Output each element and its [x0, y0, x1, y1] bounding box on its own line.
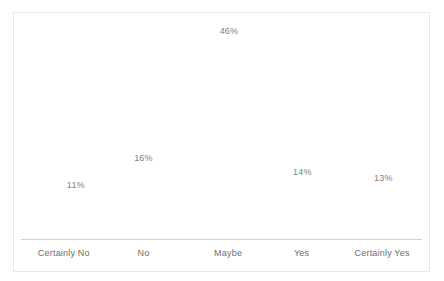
data-label-yes: 14% [293, 167, 312, 176]
category-label-certainly-yes: Certainly Yes [355, 246, 410, 260]
category-label-no: No [138, 246, 150, 260]
x-axis-category-labels: Certainly No No Maybe Yes Certainly Yes [14, 246, 429, 268]
category-label-certainly-no: Certainly No [38, 246, 90, 260]
x-axis-line [21, 239, 422, 240]
category-label-yes: Yes [294, 246, 309, 260]
category-label-maybe: Maybe [214, 246, 242, 260]
data-label-maybe: 46% [220, 26, 239, 35]
chart-card: 11% 16% 46% 14% 13% Certainly No No Mayb… [13, 12, 430, 272]
data-label-certainly-no: 11% [67, 180, 85, 189]
data-label-certainly-yes: 13% [374, 173, 393, 182]
chart-plot-area: 11% 16% 46% 14% 13% [14, 13, 429, 271]
data-label-no: 16% [134, 153, 153, 162]
